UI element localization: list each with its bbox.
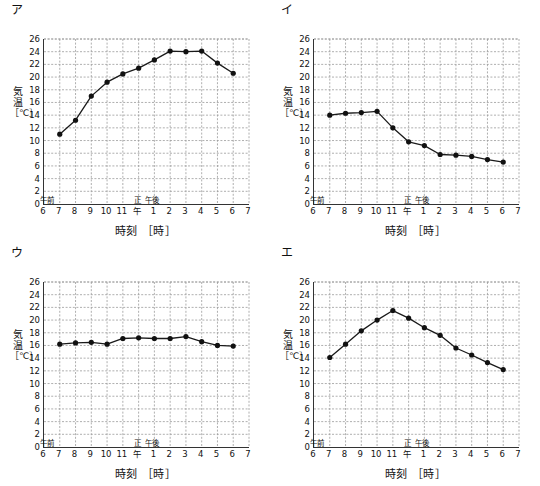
y-tick-label: 6 [24, 405, 40, 414]
data-point-marker [469, 154, 474, 159]
x-tick-label: 5 [214, 450, 219, 459]
x-axis-ticks: 67891011午1234567 [313, 450, 518, 464]
y-tick-label: 12 [294, 124, 310, 133]
x-tick-label: 7 [326, 450, 331, 459]
figure-grid: ア気温［℃］02468101214161820222426午前正午後678910… [0, 0, 540, 486]
data-point-marker [120, 71, 125, 76]
y-tick-label: 24 [294, 290, 310, 299]
y-tick-label: 14 [24, 354, 40, 363]
x-tick-label: 7 [56, 450, 61, 459]
x-tick-label: 11 [116, 207, 127, 216]
data-point-marker [168, 48, 173, 53]
x-tick-label: 1 [151, 207, 156, 216]
x-tick-label: 午 [133, 207, 142, 216]
y-tick-label: 0 [294, 200, 310, 209]
x-tick-label: 10 [371, 207, 382, 216]
x-tick-label: 5 [484, 207, 489, 216]
x-tick-label: 2 [436, 450, 441, 459]
y-tick-label: 10 [294, 379, 310, 388]
chart-panel-イ: イ気温［℃］02468101214161820222426午前正午後678910… [270, 0, 540, 243]
x-tick-label: 3 [182, 450, 187, 459]
data-point-marker [359, 328, 364, 333]
y-axis-ticks: 02468101214161820222426 [294, 33, 310, 209]
y-tick-label: 14 [294, 111, 310, 120]
x-tick-label: 4 [198, 450, 203, 459]
y-tick-label: 12 [24, 367, 40, 376]
data-point-marker [327, 113, 332, 118]
data-series-line [60, 51, 233, 134]
y-tick-label: 16 [24, 341, 40, 350]
x-label-pm: 午後 [415, 197, 429, 205]
x-tick-label: 10 [371, 450, 382, 459]
data-point-marker [136, 66, 141, 71]
y-tick-label: 22 [24, 60, 40, 69]
y-tick-label: 10 [24, 136, 40, 145]
x-tick-label: 9 [88, 450, 93, 459]
x-tick-label: 6 [500, 207, 505, 216]
data-point-marker [469, 352, 474, 357]
x-tick-label: 7 [245, 207, 250, 216]
x-tick-label: 8 [342, 450, 347, 459]
y-tick-label: 0 [24, 443, 40, 452]
y-tick-label: 4 [24, 417, 40, 426]
chart-panel-エ: エ気温［℃］02468101214161820222426午前正午後678910… [270, 243, 540, 486]
x-tick-label: 8 [72, 207, 77, 216]
data-point-marker [183, 334, 188, 339]
x-tick-label: 10 [101, 450, 112, 459]
data-point-marker [438, 333, 443, 338]
x-tick-label: 7 [515, 207, 520, 216]
y-tick-label: 22 [294, 303, 310, 312]
chart-panel-ウ: ウ気温［℃］02468101214161820222426午前正午後678910… [0, 243, 270, 486]
plot-area [313, 282, 519, 448]
y-tick-label: 22 [24, 303, 40, 312]
y-tick-label: 4 [294, 417, 310, 426]
y-tick-label: 2 [24, 430, 40, 439]
plot-area [43, 39, 249, 205]
y-tick-label: 20 [294, 316, 310, 325]
chart-panel-ア: ア気温［℃］02468101214161820222426午前正午後678910… [0, 0, 270, 243]
chart-svg [314, 282, 519, 447]
x-label-pm: 午後 [415, 440, 429, 448]
y-tick-label: 8 [24, 149, 40, 158]
x-tick-label: 6 [230, 450, 235, 459]
x-tick-label: 3 [182, 207, 187, 216]
y-tick-label: 18 [24, 86, 40, 95]
chart-svg [44, 39, 249, 204]
x-tick-label: 6 [40, 207, 45, 216]
x-tick-label: 2 [166, 207, 171, 216]
y-tick-label: 26 [24, 278, 40, 287]
data-point-marker [57, 342, 62, 347]
x-tick-label: 11 [386, 450, 397, 459]
chart-svg [314, 39, 519, 204]
data-point-marker [199, 339, 204, 344]
y-tick-label: 18 [294, 329, 310, 338]
data-series-line [330, 111, 503, 162]
x-label-noon-top: 正 [404, 440, 411, 448]
data-point-marker [422, 143, 427, 148]
plot-area [43, 282, 249, 448]
data-point-marker [120, 336, 125, 341]
data-point-marker [104, 342, 109, 347]
x-tick-label: 6 [310, 450, 315, 459]
data-point-marker [73, 340, 78, 345]
y-axis-ticks: 02468101214161820222426 [24, 276, 40, 452]
y-tick-label: 4 [294, 174, 310, 183]
x-tick-label: 2 [166, 450, 171, 459]
data-point-marker [501, 160, 506, 165]
x-tick-label: 7 [245, 450, 250, 459]
y-tick-label: 6 [24, 162, 40, 171]
x-tick-label: 11 [116, 450, 127, 459]
y-tick-label: 2 [294, 430, 310, 439]
x-tick-label: 5 [214, 207, 219, 216]
y-tick-label: 2 [24, 187, 40, 196]
data-point-marker [453, 153, 458, 158]
y-tick-label: 20 [294, 73, 310, 82]
y-tick-label: 8 [294, 392, 310, 401]
y-tick-label: 16 [24, 98, 40, 107]
x-label-noon-top: 正 [134, 440, 141, 448]
x-tick-label: 9 [358, 450, 363, 459]
x-label-noon-top: 正 [134, 197, 141, 205]
y-tick-label: 18 [24, 329, 40, 338]
x-tick-label: 1 [421, 450, 426, 459]
y-tick-label: 18 [294, 86, 310, 95]
